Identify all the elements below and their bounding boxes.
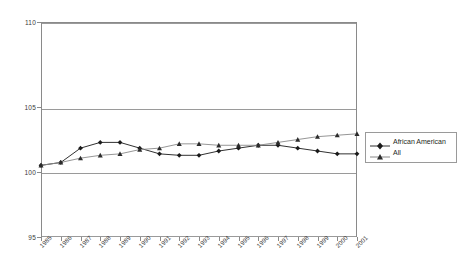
data-point <box>157 151 162 156</box>
triangle-marker-icon <box>369 148 391 158</box>
legend-item-all[interactable]: All <box>369 147 452 158</box>
legend-label-all: All <box>393 149 401 156</box>
line-chart: 110 105 100 95 1985198619871988198919901… <box>0 0 462 276</box>
data-point <box>177 153 182 158</box>
data-point <box>118 140 123 145</box>
data-point <box>216 149 221 154</box>
diamond-marker-icon <box>369 137 391 147</box>
data-point <box>295 146 300 151</box>
legend-label-african-american: African American <box>393 138 446 145</box>
data-point <box>335 151 340 156</box>
legend: African American All <box>365 132 457 163</box>
data-point <box>197 153 202 158</box>
legend-item-african-american[interactable]: African American <box>369 136 452 147</box>
data-point <box>355 151 360 156</box>
data-point <box>315 149 320 154</box>
data-point <box>98 140 103 145</box>
